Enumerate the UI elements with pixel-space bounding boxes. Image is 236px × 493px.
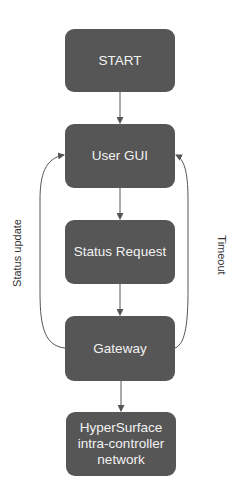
edge-label-timeout: Timeout [216,235,228,274]
node-start: START [65,29,175,92]
node-gateway-label: Gateway [93,341,146,357]
node-hypersurface-label: HyperSurface intra-controller network [78,420,164,468]
node-status-request: Status Request [65,220,175,284]
node-status-request-label: Status Request [74,244,166,260]
edge-gateway-to-user-gui-status-update [40,155,65,348]
node-user-gui: User GUI [65,124,175,188]
edge-label-status-update: Status update [11,219,23,287]
node-start-label: START [98,53,141,69]
node-hypersurface: HyperSurface intra-controller network [66,412,176,476]
flowchart-canvas: START User GUI Status Request Gateway Hy… [0,0,236,493]
edge-gateway-to-user-gui-timeout [175,155,188,348]
node-user-gui-label: User GUI [92,148,148,164]
node-gateway: Gateway [65,316,175,381]
